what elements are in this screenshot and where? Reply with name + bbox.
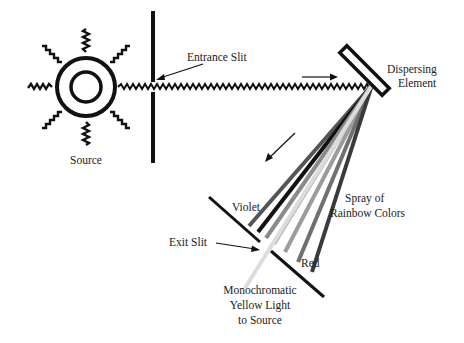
- monochromator-diagram: Source Entrance Slit Dispersing Element …: [0, 0, 464, 343]
- beam-direction-arrow: [302, 74, 338, 81]
- exit-slit-pointer-arrow: [216, 243, 260, 252]
- red-label: Red: [301, 256, 320, 270]
- dispersing-element-label-line2: Element: [398, 76, 436, 90]
- light-beam-zigzag: [118, 84, 370, 89]
- entrance-slit-label: Entrance Slit: [187, 50, 247, 64]
- exit-slit-label: Exit Slit: [169, 235, 207, 249]
- source-label: Source: [70, 153, 102, 167]
- output-label-line1: Monochromatic: [215, 283, 305, 297]
- dispersing-element-label-line1: Dispersing: [387, 62, 437, 76]
- source-lamp-icon: [28, 29, 130, 145]
- entrance-slit-pointer-arrow: [156, 64, 203, 80]
- output-label-line2: Yellow Light: [215, 298, 305, 312]
- spray-label-line1: Spray of: [345, 191, 384, 205]
- dispersed-light-direction-arrow: [265, 133, 295, 162]
- violet-label: Violet: [232, 200, 260, 214]
- spray-label-line2: Rainbow Colors: [330, 206, 405, 220]
- output-label-line3: to Source: [215, 313, 305, 327]
